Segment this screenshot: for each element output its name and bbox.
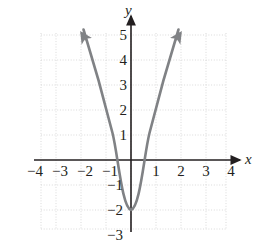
- y-tick-label-4: 4: [107, 53, 127, 68]
- x-tick-label-3: 3: [195, 164, 217, 179]
- x-tick-label-1: 1: [145, 164, 167, 179]
- y-tick-label-neg1: −1: [103, 178, 123, 193]
- y-tick-label-neg3: −3: [103, 228, 123, 243]
- y-tick-label-1: 1: [107, 128, 127, 143]
- parabola-plot: [0, 0, 268, 251]
- x-tick-label-2: 2: [170, 164, 192, 179]
- x-tick-label-4: 4: [220, 164, 242, 179]
- x-axis-label: x: [245, 152, 252, 167]
- graph-figure: x y −4 −3 −2 −1 1 2 3 4 5 4 3 2 1 −1 −2 …: [0, 0, 268, 251]
- x-tick-label-neg2: −2: [74, 164, 96, 179]
- y-tick-label-neg2: −2: [103, 203, 123, 218]
- y-tick-label-2: 2: [107, 103, 127, 118]
- y-tick-label-3: 3: [107, 78, 127, 93]
- grid-lines: [41, 33, 226, 229]
- y-axis-label: y: [125, 3, 132, 18]
- x-tick-label-neg3: −3: [49, 164, 71, 179]
- y-tick-label-5: 5: [107, 28, 127, 43]
- x-tick-label-neg4: −4: [24, 164, 46, 179]
